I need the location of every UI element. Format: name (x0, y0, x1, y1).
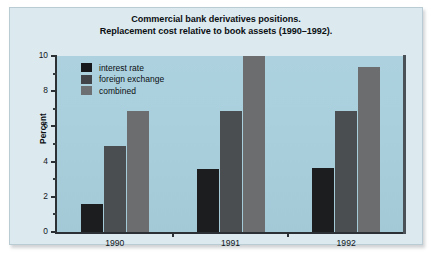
y-tick-mark (51, 125, 57, 127)
bar-1990-foreign-exchange (104, 146, 126, 232)
legend-swatch-icon (81, 75, 92, 84)
plot-right-border (403, 55, 406, 234)
y-tick-mark (51, 55, 57, 57)
bar-1992-interest-rate (312, 168, 334, 232)
y-tick-mark (51, 90, 57, 92)
legend-item: foreign exchange (81, 74, 164, 86)
y-tick-mark (51, 161, 57, 163)
bar-1992-foreign-exchange (335, 111, 357, 232)
bar-1990-interest-rate (81, 204, 103, 232)
x-axis-line (55, 232, 406, 234)
y-tick-label: 8 (26, 85, 48, 95)
plot-area-wrapper: 0246810 199019911992 interest rateforeig… (57, 56, 404, 232)
legend-item-label: interest rate (99, 63, 144, 73)
bar-1991-interest-rate (197, 169, 219, 232)
y-tick-label: 6 (26, 120, 48, 130)
legend-swatch-icon (81, 86, 92, 95)
y-tick-label: 10 (26, 50, 48, 60)
y-tick-mark (51, 231, 57, 233)
y-tick-mark (53, 178, 57, 180)
x-tick-mark (172, 232, 174, 237)
chart-legend: interest rateforeign exchangecombined (81, 62, 164, 97)
y-tick-mark (53, 143, 57, 145)
x-tick-mark (287, 232, 289, 237)
legend-item: interest rate (81, 62, 164, 74)
y-tick-label: 0 (26, 226, 48, 236)
chart-title-line-1: Commercial bank derivatives positions. (9, 13, 423, 25)
legend-swatch-icon (81, 63, 92, 72)
legend-item-label: combined (99, 86, 136, 96)
y-tick-mark (53, 108, 57, 110)
y-tick-mark (51, 196, 57, 198)
legend-item: combined (81, 85, 164, 97)
legend-item-label: foreign exchange (99, 74, 164, 84)
x-axis-label-1990: 1990 (75, 238, 155, 248)
y-tick-mark (53, 73, 57, 75)
y-tick-mark (53, 213, 57, 215)
figure-root: Commercial bank derivatives positions. R… (0, 0, 436, 260)
chart-title-line-2: Replacement cost relative to book assets… (9, 25, 423, 37)
bar-1992-combined (358, 67, 380, 232)
chart-title: Commercial bank derivatives positions. R… (9, 13, 423, 38)
bar-1991-combined (243, 56, 265, 232)
x-axis-label-1992: 1992 (306, 238, 386, 248)
x-axis-label-1991: 1991 (191, 238, 271, 248)
bar-1990-combined (127, 111, 149, 232)
y-tick-label: 2 (26, 191, 48, 201)
bar-1991-foreign-exchange (220, 111, 242, 232)
y-tick-label: 4 (26, 156, 48, 166)
